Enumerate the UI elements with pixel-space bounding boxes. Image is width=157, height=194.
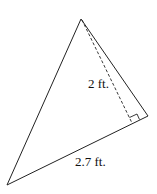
- right-angle-marker: [130, 114, 140, 120]
- base-label: 2.7 ft.: [75, 154, 106, 169]
- height-label: 2 ft.: [88, 76, 109, 91]
- triangle-figure: 2 ft. 2.7 ft.: [0, 0, 157, 194]
- height-dashed-line: [82, 20, 132, 123]
- triangle-diagram: 2 ft. 2.7 ft.: [0, 0, 157, 194]
